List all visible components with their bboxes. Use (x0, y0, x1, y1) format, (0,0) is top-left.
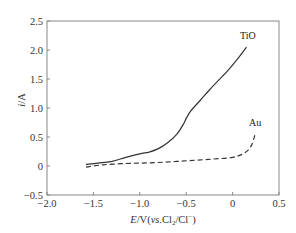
series-label-au: Au (249, 117, 261, 128)
x-tick-label: 0 (230, 198, 235, 209)
series-label-tio: TiO (240, 30, 256, 41)
series-layer (86, 47, 255, 167)
y-axis-ticks: −0.500.51.01.52.02.5 (24, 16, 50, 201)
y-tick-label: −0.5 (24, 190, 43, 201)
plot-frame (47, 21, 279, 195)
y-tick-label: 2.0 (30, 45, 43, 56)
chart: −2.0−1.5−1.0−0.500.5 −0.500.51.01.52.02.… (0, 0, 296, 233)
x-axis-label: E/V(vs.Cl2/Cl−) (129, 213, 196, 227)
series-line-tio (86, 47, 247, 164)
y-tick-label: 0.5 (30, 132, 43, 143)
y-tick-label: 1.0 (30, 103, 43, 114)
x-tick-label: 0.5 (272, 198, 285, 209)
x-tick-label: −1.5 (84, 198, 103, 209)
x-tick-label: −1.0 (130, 198, 149, 209)
y-tick-label: 2.5 (30, 16, 43, 27)
y-axis-label: i/A (16, 93, 27, 107)
y-tick-label: 1.5 (30, 74, 43, 85)
x-tick-label: −0.5 (177, 198, 196, 209)
y-tick-label: 0 (38, 161, 43, 172)
